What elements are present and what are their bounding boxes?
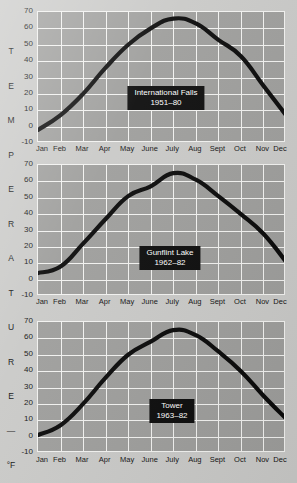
y-tick-1-2: 50	[24, 193, 33, 201]
y-tick-0-0: 70	[24, 7, 33, 15]
y-tick-1-8: -10	[21, 291, 33, 299]
series-line-2	[38, 322, 285, 452]
y-tick-2-7: 0	[29, 432, 33, 440]
x-tick-2-7: Aug	[188, 455, 201, 465]
y-caption-letter-1: E	[0, 81, 22, 91]
y-tick-1-5: 20	[24, 242, 33, 250]
series-line-1	[38, 165, 285, 295]
y-tick-2-3: 40	[24, 366, 33, 374]
y-tick-2-1: 60	[24, 333, 33, 341]
y-tick-0-1: 60	[24, 23, 33, 31]
y-caption-letter-10: E	[0, 391, 22, 401]
callout-subtitle-0: 1951–80	[134, 98, 197, 108]
y-tick-2-4: 30	[24, 383, 33, 391]
y-tick-2-0: 70	[24, 317, 33, 325]
temperature-charts-figure: TEMPERATURE—°F 706050403020100-10 JanFeb…	[0, 0, 297, 483]
x-tick-2-10: Nov	[256, 455, 269, 465]
y-tick-1-1: 60	[24, 176, 33, 184]
chart-callout-1: Gunflint Lake 1962–82	[139, 246, 200, 270]
x-tick-2-9: Oct	[234, 455, 246, 465]
chart-callout-0: International Falls 1951–80	[127, 86, 204, 110]
y-tick-2-6: 10	[24, 415, 33, 423]
series-path-0	[38, 18, 285, 130]
x-tick-2-8: Sept	[210, 455, 225, 465]
y-caption-letter-12: °F	[0, 460, 22, 470]
y-tick-2-5: 20	[24, 399, 33, 407]
y-caption-letter-2: M	[0, 115, 22, 125]
callout-title-0: International Falls	[134, 88, 197, 98]
x-tick-2-3: Apr	[99, 455, 111, 465]
x-tick-1-2: Mar	[76, 297, 89, 307]
x-tick-1-7: Aug	[188, 297, 201, 307]
x-tick-1-3: Apr	[99, 297, 111, 307]
y-axis-caption: TEMPERATURE—°F	[0, 0, 22, 483]
plot-area-0	[37, 11, 285, 142]
y-tick-2-8: -10	[21, 448, 33, 456]
series-line-0	[38, 12, 285, 142]
x-tick-0-4: May	[120, 144, 134, 154]
y-tick-0-5: 20	[24, 89, 33, 97]
x-tick-2-1: Feb	[53, 455, 66, 465]
x-axis-labels-2: JanFebMarAprMayJuneJulyAugSeptOctNovDec	[37, 455, 285, 467]
x-tick-1-6: July	[166, 297, 179, 307]
callout-subtitle-1: 1962–82	[146, 258, 193, 268]
x-tick-0-9: Oct	[234, 144, 246, 154]
x-tick-1-1: Feb	[53, 297, 66, 307]
y-tick-0-6: 10	[24, 105, 33, 113]
x-tick-1-8: Sept	[210, 297, 225, 307]
chart-callout-2: Tower 1963–82	[149, 399, 194, 423]
x-tick-0-11: Dec	[273, 144, 286, 154]
x-tick-2-5: June	[142, 455, 158, 465]
y-caption-letter-4: E	[0, 184, 22, 194]
y-caption-letter-3: P	[0, 150, 22, 160]
x-tick-0-3: Apr	[99, 144, 111, 154]
x-tick-2-6: July	[166, 455, 179, 465]
y-tick-0-2: 50	[24, 40, 33, 48]
x-tick-0-7: Aug	[188, 144, 201, 154]
x-tick-2-11: Dec	[273, 455, 286, 465]
x-tick-1-10: Nov	[256, 297, 269, 307]
callout-title-1: Gunflint Lake	[146, 248, 193, 258]
plot-area-1	[37, 164, 285, 295]
x-tick-1-9: Oct	[234, 297, 246, 307]
y-tick-0-4: 30	[24, 73, 33, 81]
x-tick-1-11: Dec	[273, 297, 286, 307]
x-tick-2-2: Mar	[76, 455, 89, 465]
x-axis-labels-0: JanFebMarAprMayJuneJulyAugSeptOctNovDec	[37, 144, 285, 156]
y-caption-letter-7: T	[0, 288, 22, 298]
y-tick-1-6: 10	[24, 258, 33, 266]
x-tick-0-5: June	[142, 144, 158, 154]
y-tick-2-2: 50	[24, 350, 33, 358]
y-tick-1-0: 70	[24, 160, 33, 168]
x-tick-0-8: Sept	[210, 144, 225, 154]
y-tick-0-3: 40	[24, 56, 33, 64]
plot-area-2	[37, 321, 285, 452]
x-tick-1-4: May	[120, 297, 134, 307]
y-caption-letter-6: A	[0, 253, 22, 263]
x-tick-2-0: Jan	[36, 455, 48, 465]
x-tick-1-0: Jan	[36, 297, 48, 307]
x-axis-labels-1: JanFebMarAprMayJuneJulyAugSeptOctNovDec	[37, 297, 285, 309]
y-tick-1-4: 30	[24, 226, 33, 234]
x-tick-0-1: Feb	[53, 144, 66, 154]
callout-subtitle-2: 1963–82	[156, 411, 187, 421]
x-tick-0-2: Mar	[76, 144, 89, 154]
x-tick-0-6: July	[166, 144, 179, 154]
y-caption-letter-11: —	[0, 426, 22, 436]
y-caption-letter-8: U	[0, 322, 22, 332]
x-tick-0-10: Nov	[256, 144, 269, 154]
y-tick-1-3: 40	[24, 209, 33, 217]
x-tick-2-4: May	[120, 455, 134, 465]
y-caption-letter-9: R	[0, 357, 22, 367]
callout-title-2: Tower	[156, 401, 187, 411]
x-tick-0-0: Jan	[36, 144, 48, 154]
x-tick-1-5: June	[142, 297, 158, 307]
y-tick-0-8: -10	[21, 138, 33, 146]
y-caption-letter-0: T	[0, 46, 22, 56]
y-tick-0-7: 0	[29, 122, 33, 130]
y-caption-letter-5: R	[0, 219, 22, 229]
y-tick-1-7: 0	[29, 275, 33, 283]
